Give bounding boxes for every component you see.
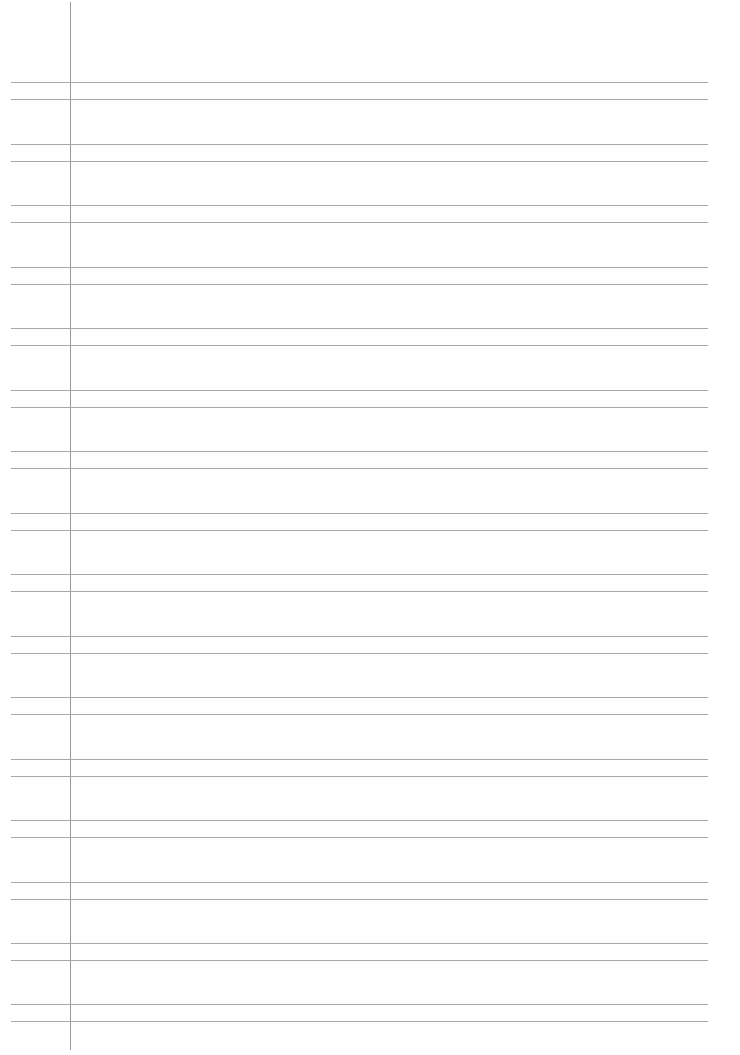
ruled-line: [11, 837, 708, 838]
ruled-line: [11, 697, 708, 698]
ruled-line: [11, 345, 708, 346]
ruled-line: [11, 407, 708, 408]
ruled-line: [11, 759, 708, 760]
ruled-line: [11, 267, 708, 268]
ruled-line: [11, 284, 708, 285]
ruled-line: [11, 468, 708, 469]
ruled-line: [11, 882, 708, 883]
ruled-line: [11, 451, 708, 452]
ruled-line: [11, 943, 708, 944]
ruled-line: [11, 82, 708, 83]
ruled-line: [11, 574, 708, 575]
ruled-line: [11, 591, 708, 592]
ruled-line: [11, 1021, 708, 1022]
ruled-line: [11, 1004, 708, 1005]
ruled-line: [11, 328, 708, 329]
ruled-line: [11, 899, 708, 900]
ruled-line: [11, 714, 708, 715]
ruled-line: [11, 144, 708, 145]
ruled-line: [11, 390, 708, 391]
ruled-line: [11, 636, 708, 637]
ruled-line: [11, 99, 708, 100]
ruled-line: [11, 205, 708, 206]
ruled-line: [11, 530, 708, 531]
ruled-line: [11, 222, 708, 223]
ruled-line: [11, 820, 708, 821]
margin-line: [70, 2, 71, 1050]
ruled-line: [11, 513, 708, 514]
ruled-line: [11, 776, 708, 777]
ruled-line: [11, 960, 708, 961]
ruled-line: [11, 161, 708, 162]
ruled-line: [11, 653, 708, 654]
